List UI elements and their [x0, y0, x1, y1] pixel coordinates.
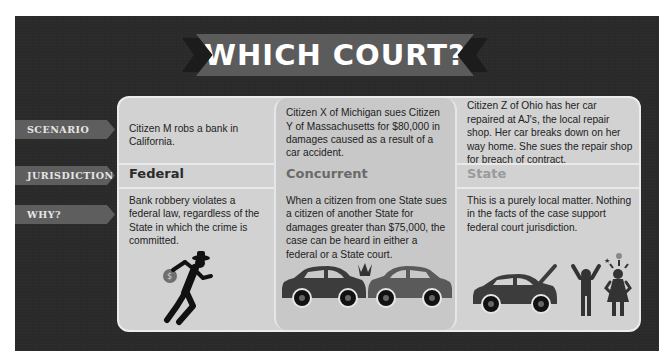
why-text: When a citizen from one State sues a cit… [286, 194, 447, 261]
why-text: Bank robbery violates a federal law, reg… [129, 194, 266, 248]
scenario-text: Citizen M robs a bank in California. [129, 106, 266, 164]
car-crash-icon [278, 260, 456, 310]
page-title: WHICH COURT? [204, 38, 466, 72]
jurisdiction-label: State [467, 166, 506, 181]
scenario-text: Citizen Z of Ohio has her car repaired a… [467, 104, 633, 162]
why-text: This is a purely local matter. Nothing i… [467, 194, 633, 234]
row-label-why: WHY? [15, 205, 115, 224]
comparison-card: Citizen M robs a bank in California. Fed… [117, 96, 641, 332]
jurisdiction-label: Concurrent [286, 166, 368, 181]
column-state: Citizen Z of Ohio has her car repaired a… [457, 98, 641, 330]
broken-car-and-angry-people-icon: ★ [469, 248, 639, 320]
scenario-text: Citizen X of Michigan sues Citizen Y of … [286, 104, 447, 162]
jurisdiction-label: Federal [129, 166, 184, 181]
banner-ribbon: WHICH COURT? [196, 34, 474, 76]
row-label-jurisdiction: JURISDICTION [15, 166, 115, 185]
robber-with-money-bag-icon: $ [157, 248, 219, 326]
column-concurrent: Citizen X of Michigan sues Citizen Y of … [274, 98, 457, 330]
svg-text:★: ★ [604, 257, 610, 265]
title-banner: WHICH COURT? [196, 34, 474, 76]
svg-text:$: $ [167, 272, 172, 281]
column-federal: Citizen M robs a bank in California. Fed… [119, 98, 274, 330]
row-label-scenario: SCENARIO [15, 120, 115, 139]
